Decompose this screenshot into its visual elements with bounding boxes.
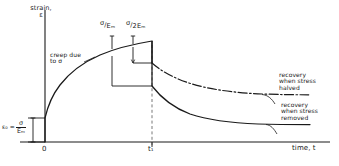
recovery-halved-annotation: recovery when stress halved [279, 72, 316, 91]
x-tick-label-t1: t₁ [148, 146, 154, 154]
eps0-fraction-denominator: Eₘ [16, 128, 26, 135]
x-tick-label-origin: 0 [42, 146, 47, 154]
eps0-fraction: σ Eₘ [16, 120, 26, 135]
eps0-dimension-bracket [28, 118, 45, 142]
sigma-over-2Em-denominator: 2Eₘ [133, 22, 146, 30]
creep-annotation-line2: to σ [50, 57, 62, 64]
sigma-over-Em-label: σ/Eₘ [100, 20, 115, 30]
creep-leader-line [84, 57, 95, 62]
recovery-removed-annotation: recovery when stress removed [281, 102, 318, 121]
recovery-removed-leader [266, 125, 277, 135]
creep-annotation: creep due to σ [50, 52, 81, 65]
eps0-label: ε₀ = [2, 124, 15, 130]
recovery-halved-line3: halved [279, 84, 300, 91]
eps0-annotation: ε₀ = σ Eₘ [2, 120, 26, 135]
x-axis-title: time, t [292, 145, 316, 153]
sigma-over-2Em-bracket [131, 36, 152, 63]
recovery-removed-line3: removed [281, 114, 308, 121]
sigma-over-Em-bracket [110, 36, 152, 86]
y-axis-title: strain, ε [21, 5, 61, 19]
y-axis-title-line2: ε [39, 11, 43, 19]
sigma-over-Em-denominator: Eₘ [107, 22, 115, 30]
recovery-halved-leader [262, 95, 275, 105]
sigma-over-2Em-label: σ/2Eₘ [126, 20, 145, 30]
creep-recovery-figure: strain, ε time, t 0 t₁ ε₀ = σ Eₘ creep d… [0, 0, 339, 166]
